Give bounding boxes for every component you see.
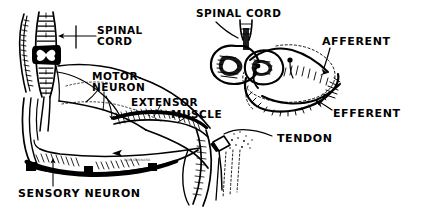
label-motor-neuron-line2: NEURON bbox=[92, 81, 145, 93]
artist-signature: BOB GUNNARD bbox=[124, 158, 150, 162]
label-extensor: EXTENSOR bbox=[131, 97, 198, 108]
label-tendon: TENDON bbox=[277, 133, 333, 144]
hand-and-tendon-drawing bbox=[183, 128, 272, 206]
label-motor-neuron: MOTOR NEURON bbox=[92, 71, 145, 92]
label-sensory-neuron: SENSORY NEURON bbox=[18, 188, 141, 199]
spinal-column-drawing bbox=[20, 12, 61, 131]
label-afferent: AFFERENT bbox=[322, 36, 391, 47]
spinal-cord-cross-section bbox=[211, 20, 340, 116]
label-efferent: EFFERENT bbox=[333, 108, 401, 119]
label-spinal-cord-right: SPINAL CORD bbox=[196, 8, 281, 19]
reflex-arc-figure: SPINAL CORD MOTOR NEURON EXTENSOR MUSCLE… bbox=[0, 0, 430, 216]
label-spinal-cord-left: SPINAL CORD bbox=[97, 25, 143, 46]
label-spinal-cord-left-line2: CORD bbox=[97, 35, 132, 47]
label-muscle: MUSCLE bbox=[171, 109, 222, 120]
